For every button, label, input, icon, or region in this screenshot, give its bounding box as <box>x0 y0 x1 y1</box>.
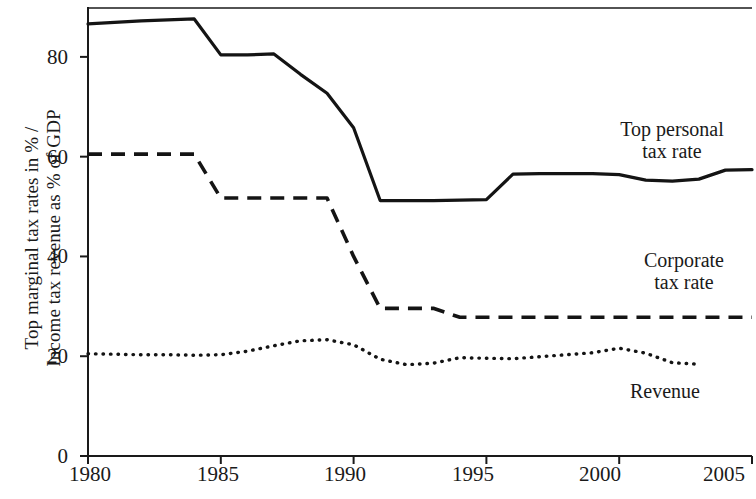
series-label-revenue: Revenue <box>600 380 730 402</box>
series-label-corporate-tax-rate: Corporate tax rate <box>614 249 754 293</box>
x-tick-label-1980: 1980 <box>50 463 130 485</box>
series-label-corporate-line-1: Corporate <box>614 249 754 271</box>
y-tick-label-20: 20 <box>28 346 68 367</box>
series-line-top-personal-tax-rate <box>88 19 752 201</box>
x-tick-label-1990: 1990 <box>305 463 385 485</box>
series-label-personal-line-2: tax rate <box>592 140 752 162</box>
series-label-personal-line-1: Top personal <box>592 118 752 140</box>
y-tick-marks <box>80 57 88 456</box>
series-label-top-personal-tax-rate: Top personal tax rate <box>592 118 752 162</box>
x-tick-label-1985: 1985 <box>178 463 258 485</box>
series-line-revenue <box>88 340 699 365</box>
x-tick-label-2005: 2005 <box>684 463 756 485</box>
series-label-corporate-line-2: tax rate <box>614 271 754 293</box>
series-label-revenue-text: Revenue <box>600 380 730 402</box>
y-tick-labels: 80 60 40 20 0 <box>20 0 68 499</box>
chart-figure: Top marginal tax rates in % / Income tax… <box>0 0 756 499</box>
y-tick-label-60: 60 <box>28 147 68 168</box>
x-tick-label-2000: 2000 <box>560 463 640 485</box>
y-tick-label-80: 80 <box>28 47 68 68</box>
x-tick-label-1995: 1995 <box>433 463 513 485</box>
y-tick-label-40: 40 <box>28 246 68 267</box>
